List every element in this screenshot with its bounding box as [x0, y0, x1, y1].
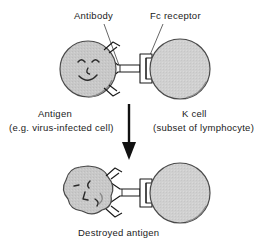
antigen-cell-top	[60, 41, 116, 97]
k-cell-top	[150, 39, 210, 99]
k-cell-bottom	[150, 163, 210, 223]
label-k-cell-subtitle: (subset of lymphocyte)	[153, 122, 254, 134]
label-destroyed-antigen: Destroyed antigen	[78, 227, 159, 239]
label-k-cell: K cell	[182, 108, 207, 120]
label-antigen-subtitle: (e.g. virus-infected cell)	[9, 122, 114, 134]
antibody-stick-bottom-lower	[106, 206, 122, 217]
label-antibody: Antibody	[74, 10, 113, 22]
label-fc-receptor: Fc receptor	[150, 10, 201, 22]
adcc-diagram: Antibody Fc receptor Antigen (e.g. virus…	[0, 0, 259, 244]
destroyed-antigen-blob	[63, 166, 112, 214]
process-arrow	[122, 104, 136, 160]
label-antigen: Antigen	[38, 108, 72, 120]
